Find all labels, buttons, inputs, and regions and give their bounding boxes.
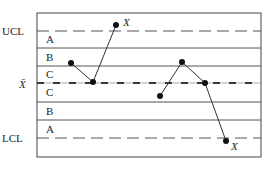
zone-label-lower-b: B bbox=[46, 105, 53, 117]
zone-label-upper-b: B bbox=[46, 51, 53, 63]
series-1-line bbox=[71, 25, 116, 82]
center-label: X̄ bbox=[18, 78, 27, 90]
zone-label-lower-c: C bbox=[46, 86, 53, 98]
data-point bbox=[68, 60, 74, 66]
point-annotation-x: X bbox=[230, 140, 239, 152]
chart-frame bbox=[37, 13, 261, 157]
lcl-label: LCL bbox=[2, 132, 23, 144]
data-point bbox=[157, 93, 163, 99]
ucl-label: UCL bbox=[2, 25, 24, 37]
zone-label-lower-a: A bbox=[46, 123, 54, 135]
control-chart: UCL X̄ LCL A B C C B A X X bbox=[0, 0, 273, 169]
data-point bbox=[202, 80, 208, 86]
data-point bbox=[90, 79, 96, 85]
point-annotation-x: X bbox=[122, 16, 131, 28]
data-point bbox=[113, 22, 119, 28]
data-point bbox=[223, 138, 229, 144]
zone-label-upper-c: C bbox=[46, 68, 53, 80]
data-point bbox=[179, 59, 185, 65]
zone-label-upper-a: A bbox=[46, 33, 54, 45]
